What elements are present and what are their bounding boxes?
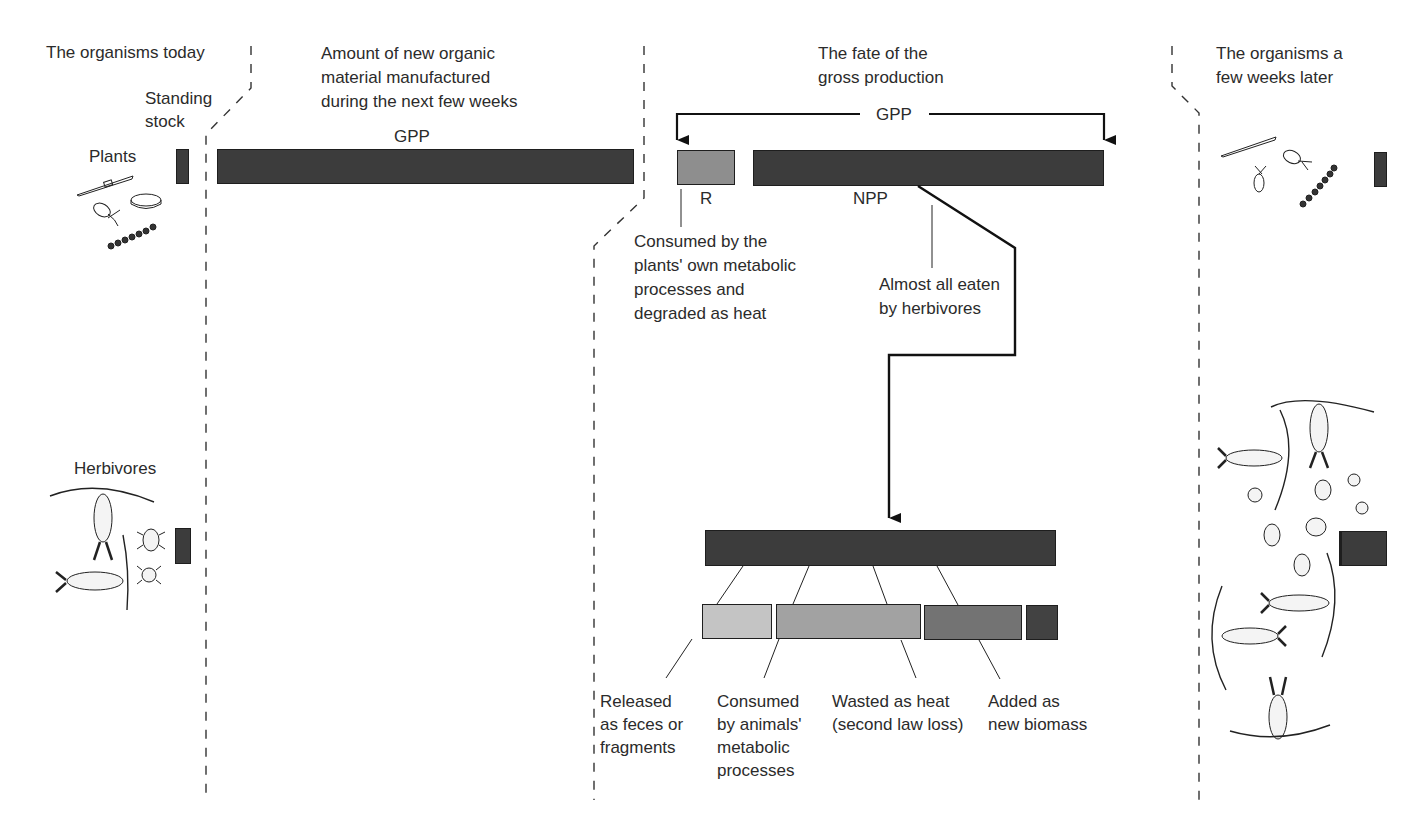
dashed-divider-lines [206, 46, 1199, 800]
diagram-lines: GPP [0, 0, 1425, 838]
phytoplankton-icons-later [1221, 137, 1337, 207]
phytoplankton-icons-today [77, 176, 161, 249]
divider-fate [1172, 46, 1199, 800]
gpp-bracket-label: GPP [876, 105, 912, 124]
outcome-leader-lines [666, 639, 1000, 679]
divider-today [206, 46, 251, 800]
branch-lines [717, 566, 958, 605]
npp-flow-arrow [889, 186, 1015, 518]
zooplankton-icons-later [1212, 401, 1374, 739]
divider-production [594, 46, 644, 800]
zooplankton-icons-today [50, 488, 165, 610]
